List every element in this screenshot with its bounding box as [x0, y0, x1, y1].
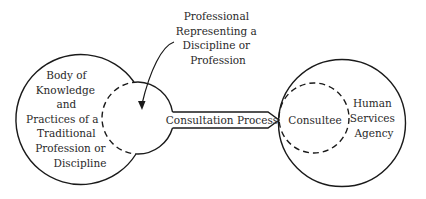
left-inner-circle-solid-arc-lower [138, 128, 173, 154]
consultation-diagram: Consultation Process Consultee Human Ser… [0, 0, 426, 199]
human-services-agency-label: Human Services Agency [350, 97, 399, 139]
body-of-knowledge-label: Body of Knowledge and Practices of a Tra… [26, 69, 109, 169]
pointer-arrow-curve [142, 42, 174, 104]
pointer-arrowhead-icon [138, 101, 146, 110]
consultee-label: Consultee [288, 114, 341, 126]
consultation-process-label: Consultation Process [166, 114, 278, 126]
professional-label: Professional Representing a Discipline o… [176, 10, 260, 66]
